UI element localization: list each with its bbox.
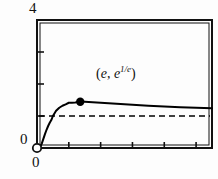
figure-container: 4 0 0 (e, e1/e) — [0, 0, 218, 179]
y-axis-ticks — [38, 52, 44, 116]
origin-open-circle-marker — [33, 144, 41, 152]
plot-frame — [37, 20, 212, 148]
plot-area — [0, 0, 218, 179]
function-curve — [37, 102, 212, 148]
frame-inner-edge — [40, 23, 209, 145]
frame-rectangle — [37, 20, 212, 148]
maximum-dot-marker — [76, 98, 84, 106]
